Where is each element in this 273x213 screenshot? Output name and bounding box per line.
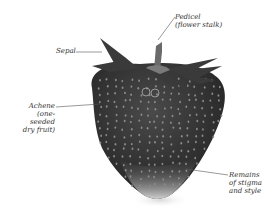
- achene-seed: [130, 134, 132, 136]
- label-achene: Achene (one-seeded dry fruit): [15, 102, 55, 134]
- achene-seed: [204, 115, 206, 117]
- achene-seed: [179, 101, 181, 103]
- label-sepal-line-1: Sepal: [56, 47, 76, 55]
- achene-seed: [124, 92, 126, 94]
- achene-seed: [221, 115, 223, 117]
- achene-seed: [170, 122, 172, 124]
- achene-seed: [147, 108, 149, 110]
- achene-seed: [106, 105, 108, 107]
- achene-seed: [156, 115, 158, 117]
- achene-seed: [178, 93, 180, 95]
- achene-seed: [171, 143, 173, 145]
- achene-seed: [147, 127, 149, 129]
- achene-seed: [139, 162, 141, 164]
- achene-seed: [114, 101, 116, 103]
- achene-seed: [170, 106, 172, 108]
- achene-seed: [107, 148, 109, 150]
- achene-seed: [169, 175, 171, 177]
- achene-seed: [155, 78, 157, 80]
- achene-seed: [115, 143, 117, 145]
- achene-seed: [107, 85, 109, 87]
- achene-seed: [189, 99, 191, 101]
- achene-seed: [179, 170, 181, 172]
- achene-seed: [188, 176, 190, 178]
- achene-seed: [213, 85, 215, 87]
- achene-seed: [169, 98, 171, 100]
- achene-seed: [132, 148, 134, 150]
- achene-seed: [154, 183, 156, 185]
- achene-seed: [123, 106, 125, 108]
- achene-seed: [195, 135, 197, 137]
- achene-seed: [155, 108, 157, 110]
- achene-seed: [125, 99, 127, 101]
- label-remains-line-2: of stigma: [229, 179, 262, 187]
- achene-seed: [148, 78, 150, 80]
- achene-seed: [164, 183, 166, 185]
- achene-seed: [162, 135, 164, 137]
- pedicel-leader-line: [158, 17, 175, 40]
- achene-seed: [147, 114, 149, 116]
- label-sepal: Sepal: [56, 47, 76, 55]
- achene-seed: [179, 113, 181, 115]
- achene-seed: [131, 143, 133, 145]
- achene-seed: [194, 157, 196, 159]
- achene-seed: [107, 93, 109, 95]
- achene-seed: [129, 99, 131, 101]
- achene-seed: [185, 106, 187, 108]
- achene-seed: [172, 115, 174, 117]
- achene-seed: [131, 115, 133, 117]
- achene-seed: [209, 99, 211, 101]
- achene-seed: [195, 141, 197, 143]
- achene-seed: [130, 175, 132, 177]
- achene-seed: [211, 106, 213, 108]
- achene-leader-line: [56, 104, 100, 107]
- achene-seed: [218, 99, 220, 101]
- achene-seed: [187, 85, 189, 87]
- label-remains-line-1: Remains: [229, 171, 262, 179]
- achene-seed: [130, 170, 132, 172]
- achene-seed: [148, 163, 150, 165]
- achene-seed: [189, 114, 191, 116]
- achene-seed: [125, 176, 127, 178]
- achene-seed: [178, 155, 180, 157]
- achene-seed: [131, 128, 133, 130]
- label-pedicel-line-2: (flower stalk): [175, 21, 222, 29]
- achene-seed: [139, 141, 141, 143]
- achene-seed: [125, 169, 127, 171]
- achene-seed: [170, 155, 172, 157]
- achene-seed: [219, 108, 221, 110]
- achene-seed: [204, 86, 206, 88]
- achene-seed: [189, 80, 191, 82]
- achene-seed: [153, 121, 155, 123]
- achene-seed: [99, 127, 101, 129]
- achene-seed: [147, 157, 149, 159]
- achene-seed: [172, 183, 174, 185]
- achene-seed: [154, 155, 156, 157]
- achene-seed: [162, 178, 164, 180]
- label-remains: Remains of stigma and style: [229, 171, 262, 195]
- achene-seed: [116, 114, 118, 116]
- achene-seed: [137, 108, 139, 110]
- achene-seed: [140, 100, 142, 102]
- achene-seed: [177, 108, 179, 110]
- achene-seed: [217, 120, 219, 122]
- achene-seed: [131, 85, 133, 87]
- achene-seed: [155, 171, 157, 173]
- achene-seed: [107, 122, 109, 124]
- achene-seed: [114, 92, 116, 94]
- achene-seed: [181, 135, 183, 137]
- label-pedicel: Pedicel (flower stalk): [175, 13, 222, 29]
- achene-seed: [154, 141, 156, 143]
- achene-seed: [178, 122, 180, 124]
- achene-seed: [131, 107, 133, 109]
- achene-seed: [186, 170, 188, 172]
- achene-seed: [195, 99, 197, 101]
- achene-seed: [161, 141, 163, 143]
- achene-seed: [122, 87, 124, 89]
- achene-seed: [181, 150, 183, 152]
- achene-seed: [213, 129, 215, 131]
- achene-seed: [99, 94, 101, 96]
- achene-seed: [148, 101, 150, 103]
- achene-seed: [149, 141, 151, 143]
- achene-seed: [179, 162, 181, 164]
